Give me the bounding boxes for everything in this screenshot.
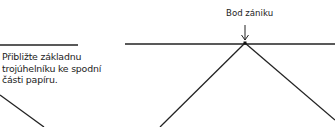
left-triangle-edge — [0, 95, 44, 127]
arrow-down-icon — [242, 25, 249, 40]
perspective-diagram: Přibližte základnu trojúhelníku ke spodn… — [0, 0, 335, 127]
instruction-text: Přibližte základnu trojúhelníku ke spodn… — [2, 51, 114, 86]
vanishing-point-dot — [244, 42, 247, 45]
vanishing-point-label: Bod zániku — [226, 8, 273, 18]
triangle-left-edge — [160, 43, 245, 127]
triangle-right-edge — [245, 43, 335, 120]
